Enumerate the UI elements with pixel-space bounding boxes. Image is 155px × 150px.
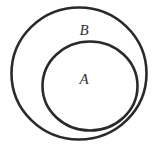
- venn-diagram: B A: [0, 0, 155, 150]
- set-a-label: A: [78, 71, 89, 87]
- set-b-label: B: [79, 22, 88, 38]
- set-a-circle: [43, 42, 138, 131]
